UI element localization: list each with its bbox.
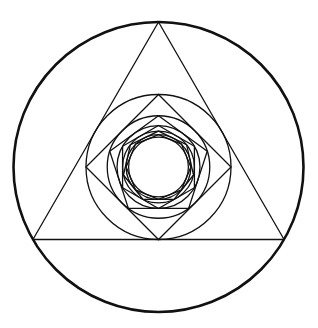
- circle-in-hexagon-shape: [123, 131, 195, 203]
- innermost-circle-shape: [129, 137, 189, 197]
- circle-in-pentagon-shape: [117, 126, 200, 209]
- pentagon-shape: [110, 116, 208, 209]
- shape-group: [14, 22, 304, 312]
- diagram-canvas: [0, 0, 318, 328]
- outer-circle-shape: [14, 22, 304, 312]
- octagon-shape: [126, 135, 191, 200]
- hexagon-shape: [123, 126, 195, 209]
